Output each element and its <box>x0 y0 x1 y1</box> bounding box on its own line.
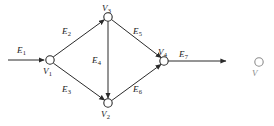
node-label-v2: V2 <box>101 110 110 119</box>
edge-label-e7: E7 <box>179 50 188 59</box>
edge-e3-line <box>53 63 104 100</box>
node-v2-circle <box>104 99 112 107</box>
node-v3-circle <box>104 13 112 21</box>
edge-label-e3: E3 <box>62 85 71 94</box>
edge-e2-line <box>53 20 104 57</box>
graph-canvas <box>0 0 274 126</box>
edge-label-e1: E1 <box>17 46 26 55</box>
edge-label-e5: E5 <box>133 27 142 36</box>
edge-label-e4: E4 <box>92 56 101 65</box>
neighbor-node-circle <box>255 58 263 66</box>
edge-label-e6: E6 <box>133 85 142 94</box>
node-label-v3: V3 <box>102 4 111 13</box>
node-label-v1: V1 <box>43 67 52 76</box>
node-v4-circle <box>160 57 168 65</box>
neighbor-node-label: V <box>252 69 258 78</box>
graph-figure: E1 E2 E3 E4 E5 E6 E7 V1 V2 V3 V4 V <box>0 0 274 126</box>
edge-label-e2: E2 <box>62 27 71 36</box>
node-label-v4: V4 <box>158 48 167 57</box>
edge-e6-line <box>112 64 162 100</box>
node-v1-circle <box>46 56 54 64</box>
